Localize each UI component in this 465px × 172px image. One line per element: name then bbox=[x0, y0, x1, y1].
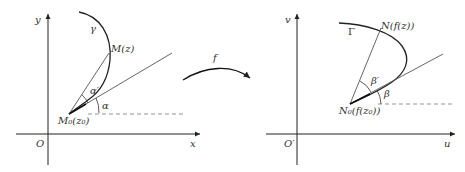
y-axis-label: y bbox=[34, 14, 41, 25]
v-axis-label: v bbox=[285, 14, 291, 25]
point-m-label: M(z) bbox=[110, 43, 134, 54]
u-axis-label: u bbox=[444, 138, 450, 149]
chord-line bbox=[350, 28, 381, 104]
angle-alpha-prime-label: α′ bbox=[90, 85, 100, 96]
x-axis-label: x bbox=[190, 138, 196, 149]
base-point-m0-label: M₀(z₀) bbox=[57, 115, 89, 126]
tangent-line-bold bbox=[69, 104, 86, 114]
angle-alpha-label: α bbox=[102, 100, 109, 111]
mapping-arrow: f bbox=[183, 52, 250, 80]
angle-arc-alpha bbox=[96, 98, 99, 113]
point-n-label: N(f(z)) bbox=[380, 20, 414, 31]
right-panel: u v O′ Γ β′ β N(f(z)) N₀(f(z₀)) bbox=[266, 14, 455, 165]
mapping-arrow-curve bbox=[183, 68, 250, 80]
conformal-map-diagram: x y O γ α′ α M(z) M₀(z₀) f u v O′ Γ bbox=[0, 0, 465, 172]
mapping-label: f bbox=[212, 52, 219, 63]
base-point-n0-label: N₀(f(z₀)) bbox=[338, 105, 380, 116]
left-panel: x y O γ α′ α M(z) M₀(z₀) bbox=[16, 12, 200, 165]
angle-arc-beta bbox=[377, 90, 381, 104]
origin-label-prime: O′ bbox=[284, 138, 295, 149]
curve-gamma-capital-label: Γ bbox=[348, 26, 355, 37]
origin-label: O bbox=[36, 138, 44, 149]
angle-beta-prime-label: β′ bbox=[370, 75, 380, 86]
angle-arc-beta-prime bbox=[360, 81, 371, 92]
angle-beta-label: β bbox=[383, 88, 390, 99]
curve-gamma-label: γ bbox=[90, 23, 96, 34]
